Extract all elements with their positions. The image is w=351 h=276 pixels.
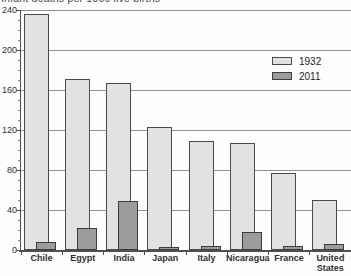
y-axis-tick-label-240: 240 — [0, 5, 17, 15]
x-axis-label-text: France — [274, 254, 304, 264]
y-axis-tick-label-160: 160 — [0, 85, 17, 95]
bar-1932-italy — [189, 141, 214, 250]
y-axis-tick-label-0: 0 — [0, 245, 17, 255]
plot-area — [21, 10, 351, 250]
x-axis-label-text: Nicaragua — [226, 254, 270, 264]
legend-item-2011: 2011 — [272, 69, 321, 83]
x-axis-label-text: Egypt — [70, 254, 95, 264]
bar-1932-united-states — [312, 200, 337, 250]
legend-label-2011: 2011 — [299, 71, 321, 82]
y-axis-tick-label-120: 120 — [0, 125, 17, 135]
bar-1932-france — [271, 173, 296, 250]
x-axis-label-text: Japan — [152, 254, 178, 264]
gridline-240 — [21, 10, 351, 11]
bar-2011-nicaragua — [242, 232, 262, 250]
legend: 1932 2011 — [272, 54, 321, 84]
bar-1932-chile — [24, 14, 49, 250]
legend-item-1932: 1932 — [272, 54, 321, 68]
y-axis-tick-label-200: 200 — [0, 45, 17, 55]
x-axis-line — [19, 250, 351, 252]
legend-label-1932: 1932 — [299, 56, 321, 67]
x-axis-label-italy: Italy — [186, 254, 227, 264]
x-axis-label-egypt: Egypt — [62, 254, 103, 264]
y-axis-tick-label-80: 80 — [0, 165, 17, 175]
bar-1932-egypt — [65, 79, 90, 250]
bar-2011-india — [118, 201, 138, 250]
x-axis-label-text: Italy — [198, 254, 216, 264]
x-axis-label-japan: Japan — [145, 254, 186, 264]
gridline-200 — [21, 50, 351, 51]
bar-2011-egypt — [77, 228, 97, 250]
x-axis-label-text: Chile — [31, 254, 53, 264]
x-axis-label-text: United States — [310, 254, 351, 273]
x-axis-label-france: France — [269, 254, 310, 264]
bar-1932-japan — [147, 127, 172, 250]
chart-title: Infant deaths per 1000 live births — [1, 0, 160, 4]
y-axis-tick-label-40: 40 — [0, 205, 17, 215]
legend-swatch-1932-icon — [272, 57, 292, 65]
x-axis-label-nicaragua: Nicaragua — [227, 254, 268, 264]
x-axis-label-chile: Chile — [21, 254, 62, 264]
x-axis-label-text: India — [114, 254, 135, 264]
x-axis-label-india: India — [104, 254, 145, 264]
legend-swatch-2011-icon — [272, 72, 292, 80]
bar-2011-chile — [36, 242, 56, 250]
bar-chart: Infant deaths per 1000 live births 04080… — [0, 0, 351, 276]
x-axis-label-united-states: United States — [310, 254, 351, 273]
